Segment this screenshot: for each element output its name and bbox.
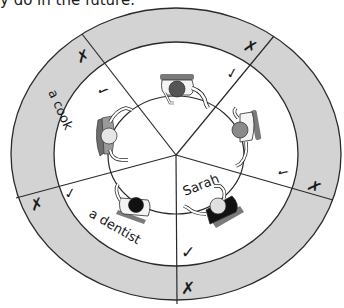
career-wheel-diagram: a cook a dentist Sarah ✗ ✗ ✗ ✗ ✗ ✓ ✓ ✓ ✓… (0, 0, 344, 308)
tick-mark-bottom: ✓ (181, 242, 195, 262)
cross-mark-bottom: ✗ (181, 278, 195, 298)
